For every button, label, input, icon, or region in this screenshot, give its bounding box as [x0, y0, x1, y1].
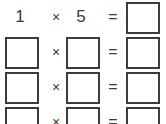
operand-a-value: 1 — [3, 2, 37, 32]
equation-row: × = — [0, 105, 166, 124]
multiplication-worksheet: 1 × 5 = × = × = × = — [0, 0, 166, 124]
equation-row: × = — [0, 35, 166, 70]
equals-operator-icon: = — [105, 2, 121, 32]
multiply-operator-icon: × — [48, 37, 64, 67]
operand-a-input-box[interactable] — [5, 72, 39, 104]
equals-operator-icon: = — [105, 107, 121, 124]
answer-input-box[interactable] — [126, 2, 160, 34]
answer-input-box[interactable] — [126, 72, 160, 104]
operand-a-input-box[interactable] — [5, 37, 39, 69]
operand-a-input-box[interactable] — [5, 107, 39, 124]
multiply-operator-icon: × — [48, 107, 64, 124]
operand-b-value: 5 — [64, 2, 98, 32]
answer-input-box[interactable] — [126, 37, 160, 69]
equals-operator-icon: = — [105, 72, 121, 102]
operand-b-input-box[interactable] — [66, 37, 100, 69]
operand-b-input-box[interactable] — [66, 72, 100, 104]
operand-b-input-box[interactable] — [66, 107, 100, 124]
answer-input-box[interactable] — [126, 107, 160, 124]
equals-operator-icon: = — [105, 37, 121, 67]
multiply-operator-icon: × — [48, 72, 64, 102]
multiply-operator-icon: × — [48, 2, 64, 32]
equation-row: × = — [0, 70, 166, 105]
equation-row: 1 × 5 = — [0, 0, 166, 35]
